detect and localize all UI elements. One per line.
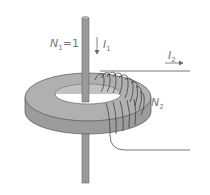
label-n1: N1=1 [50, 38, 79, 52]
primary-current-arrow [95, 37, 99, 54]
transformer-diagram [0, 0, 210, 195]
label-n2: N2 [151, 97, 164, 111]
secondary-lead-bottom [110, 135, 190, 150]
label-i1: I1 [103, 39, 111, 53]
label-i2: I2 [168, 50, 176, 64]
conductor-rod-upper [82, 18, 89, 102]
